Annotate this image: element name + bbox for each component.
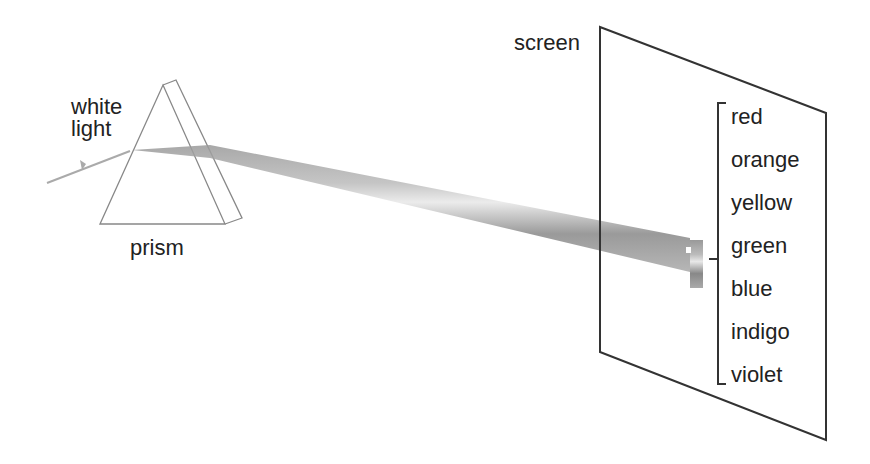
white-light-ray	[47, 151, 130, 183]
spectrum-blue: blue	[731, 278, 773, 300]
spectrum-bracket	[709, 103, 726, 384]
label-white: white	[71, 96, 122, 118]
label-light: light	[71, 118, 111, 140]
prism-diagram	[0, 0, 870, 464]
label-prism: prism	[130, 237, 184, 259]
spectrum-indigo: indigo	[731, 321, 790, 343]
label-screen: screen	[514, 32, 580, 54]
spectrum-green: green	[731, 235, 787, 257]
spectrum-violet: violet	[731, 364, 782, 386]
spectrum-orange: orange	[731, 149, 800, 171]
spectrum-yellow: yellow	[731, 192, 792, 214]
spectrum-red: red	[731, 106, 763, 128]
spectrum-band	[690, 240, 703, 288]
